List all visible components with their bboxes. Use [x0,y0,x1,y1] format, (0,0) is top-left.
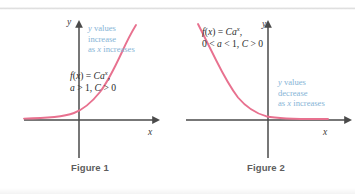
figure-1-condition-a-relation: > 1, [75,82,95,93]
figure-2-annotation: y values decrease as x increases [278,77,325,109]
figure-2-condition-a-relation: < 1, [222,38,242,49]
figure-1-x-axis-label: x [148,127,152,137]
figure-2-formula-comma: , [240,26,242,37]
figure-2-annotation-as-text: as [278,98,287,108]
figure-1-condition-c-relation: > 0 [101,82,116,93]
figure-2-annotation-line-1: y values [278,77,325,88]
figure-1-annotation-as-text: as [88,44,97,54]
figure-1-formula-function-line: f(x) = Cax, [70,70,116,82]
figure-1-annotation-line-1: y values [88,23,135,34]
figure-1-plot: y x y values increase as x increases f(x… [2,10,178,162]
figure-2-annotation-increases-text: increases [291,98,325,108]
figure-2-plot: y x y values decrease as x increases f(x… [178,10,354,162]
figure-2-panel: y x y values decrease as x increases f(x… [178,10,354,194]
figure-2-formula-function-line: f(x) = Cax, [202,26,263,38]
figure-2-condition-c-relation: > 0 [248,38,263,49]
figure-1-annotation: y values increase as x increases [88,23,135,55]
figure-2-x-axis-label: x [323,127,327,137]
figure-2-formula-equals: = [215,26,225,37]
figure-1-annotation-values-text: values [92,23,116,33]
figure-2-formula-condition-line: 0 < a < 1, C > 0 [202,38,263,50]
figure-1-formula: f(x) = Cax, a > 1, C > 0 [70,70,116,94]
figure-1-formula-condition-line: a > 1, C > 0 [70,82,116,94]
figure-1-formula-equals: = [83,70,93,81]
figure-1-y-axis-label: y [67,17,71,27]
figure-1-annotation-line-3: as x increases [88,44,135,55]
figure-1-panel: y x y values increase as x increases f(x… [2,10,178,194]
figure-2-formula: f(x) = Cax, 0 < a < 1, C > 0 [202,26,263,50]
figure-1-formula-comma: , [108,70,110,81]
figure-2-caption: Figure 2 [178,162,354,173]
figure-2-condition-lead: 0 < [202,38,217,49]
figure-1-caption: Figure 1 [2,162,178,173]
figure-2-annotation-line-3: as x increases [278,98,325,109]
figure-1-annotation-line-2: increase [88,34,135,45]
page-bottom-wash [0,188,355,194]
figure-1-annotation-increases-text: increases [101,44,135,54]
figure-2-annotation-values-text: values [282,77,306,87]
figure-2-annotation-line-2: decrease [278,88,325,99]
